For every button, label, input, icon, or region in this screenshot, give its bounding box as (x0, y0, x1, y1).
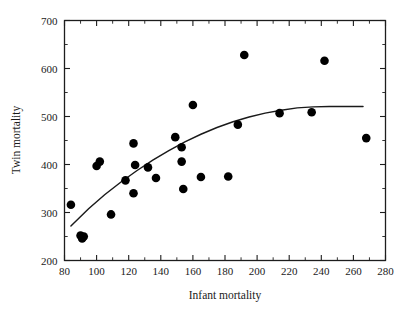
data-point (234, 120, 243, 129)
chart-canvas: 80100120140160180200220240260280 2003004… (0, 0, 404, 315)
y-tick-label-700: 700 (41, 15, 58, 27)
x-tick-label-160: 160 (185, 265, 202, 277)
data-point (79, 232, 88, 241)
data-point (320, 57, 329, 66)
y-tick-label-200: 200 (41, 255, 58, 267)
x-tick-label-120: 120 (120, 265, 137, 277)
data-point (177, 143, 186, 152)
data-point (189, 101, 198, 110)
y-tick-label-600: 600 (41, 63, 58, 75)
data-point (129, 189, 138, 198)
data-point (197, 173, 206, 182)
data-point (224, 172, 233, 181)
data-point (275, 109, 284, 118)
y-tick-label-400: 400 (41, 159, 58, 171)
data-point (121, 176, 130, 185)
data-point (67, 201, 76, 210)
y-tick-label-500: 500 (41, 111, 58, 123)
x-tick-label-180: 180 (217, 265, 234, 277)
data-point (131, 161, 140, 170)
data-point (96, 157, 105, 166)
data-point (129, 139, 138, 148)
x-tick-label-280: 280 (377, 265, 394, 277)
x-tick-label-200: 200 (249, 265, 266, 277)
data-point (177, 157, 186, 166)
data-point (307, 108, 316, 117)
y-axis-title: Twin mortality (10, 106, 23, 175)
scatter-plot-figure: 80100120140160180200220240260280 2003004… (0, 0, 404, 315)
x-tick-label-260: 260 (345, 265, 362, 277)
x-axis-title: Infant mortality (189, 289, 262, 302)
data-point (107, 210, 116, 219)
data-point (179, 185, 188, 194)
x-tick-label-100: 100 (88, 265, 105, 277)
x-tick-label-80: 80 (59, 265, 71, 277)
data-point (171, 133, 180, 142)
data-point (362, 134, 371, 143)
x-tick-label-140: 140 (153, 265, 170, 277)
x-tick-label-220: 220 (281, 265, 298, 277)
data-point (240, 51, 249, 60)
y-tick-label-300: 300 (41, 207, 58, 219)
x-tick-label-240: 240 (313, 265, 330, 277)
data-point (152, 174, 161, 183)
data-point (144, 163, 153, 172)
